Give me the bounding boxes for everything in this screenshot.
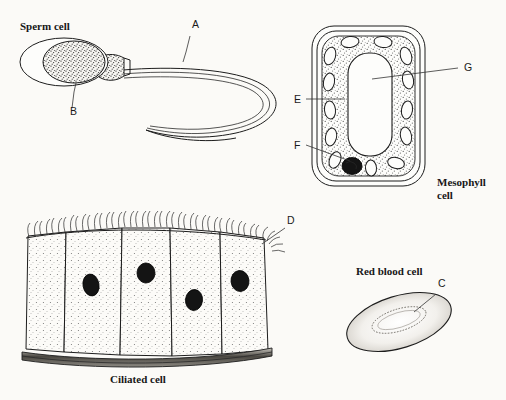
leader-line-a [183,36,190,62]
ref-label-e: E [294,93,301,105]
caption-sperm-cell: Sperm cell [20,20,70,32]
sperm-nucleus [43,41,105,83]
mesophyll-nucleus [342,158,362,175]
ref-label-f: F [294,139,300,151]
ref-label-a: A [192,18,199,30]
ciliated-cell-group [22,211,285,367]
caption-mesophyll-cell-line1: Mesophyll [437,176,486,188]
ciliated-cell-3 [120,228,172,356]
caption-red-blood-cell: Red blood cell [356,265,423,277]
ref-label-g: G [464,61,472,73]
sperm-cell-group [20,38,276,141]
mesophyll-cell-group [312,26,425,186]
ref-label-d: D [287,214,295,226]
biology-cell-diagram: Sperm cell Mesophyll cell Ciliated cell … [0,0,506,400]
red-blood-cell-group [340,281,458,362]
ref-label-c: C [438,277,446,289]
mesophyll-vacuole [348,53,392,156]
sperm-tail [123,68,276,140]
leader-line-d [262,228,285,244]
figure-canvas: Sperm cell Mesophyll cell Ciliated cell … [0,0,506,400]
rbc-body [340,281,458,362]
caption-ciliated-cell: Ciliated cell [110,373,166,385]
ciliated-cell-5 [220,232,268,354]
ref-label-b: B [70,105,77,117]
sperm-head [20,38,108,86]
caption-mesophyll-cell-line2: cell [437,189,453,201]
ciliated-cell-1 [26,232,66,352]
